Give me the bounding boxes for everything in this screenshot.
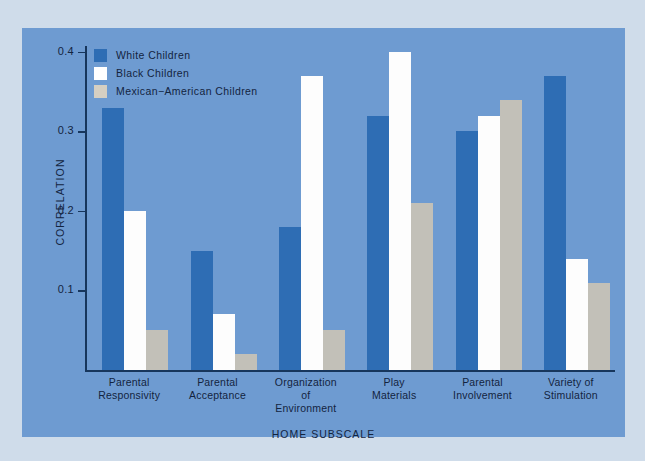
bar-group-5 [544,28,610,370]
bar-group-1 [191,28,257,370]
bar-2-0 [279,227,301,370]
y-axis-title: CORRELATION [54,142,66,262]
y-tick-label-0.1: 0.1 [48,283,74,295]
bar-group-4 [456,28,522,370]
bar-2-1 [301,76,323,370]
bar-1-2 [235,354,257,370]
plot-area: 0.10.20.30.4 CORRELATION White ChildrenB… [22,28,625,437]
category-label-line: Environment [254,402,358,415]
category-label-line: Variety of [519,376,623,389]
x-axis-title: HOME SUBSCALE [22,428,625,440]
bar-1-1 [213,314,235,370]
category-label-5: Variety ofStimulation [519,376,623,402]
chart-page: 0.10.20.30.4 CORRELATION White ChildrenB… [0,0,645,461]
bar-3-1 [389,52,411,370]
category-label-line: Stimulation [519,389,623,402]
bar-0-0 [102,108,124,370]
bar-2-2 [323,330,345,370]
bar-0-2 [146,330,168,370]
bar-4-2 [500,100,522,370]
x-axis-category-labels: ParentalResponsivityParentalAcceptanceOr… [85,376,615,432]
bar-4-1 [478,116,500,371]
bar-4-0 [456,131,478,370]
bar-5-0 [544,76,566,370]
bar-0-1 [124,211,146,370]
bar-groups [85,28,615,370]
bar-5-2 [588,283,610,370]
bar-5-1 [566,259,588,370]
bar-3-2 [411,203,433,370]
bar-group-2 [279,28,345,370]
x-axis-line [85,370,615,372]
y-tick-label-0.4: 0.4 [48,45,74,57]
bar-group-3 [367,28,433,370]
chart-panel: 0.10.20.30.4 CORRELATION White ChildrenB… [22,28,625,437]
bar-3-0 [367,116,389,371]
bar-1-0 [191,251,213,370]
y-tick-label-0.3: 0.3 [48,124,74,136]
bar-group-0 [102,28,168,370]
